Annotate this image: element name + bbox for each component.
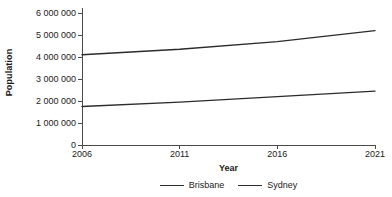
legend-label: Brisbane [189, 180, 225, 190]
legend-line-swatch [238, 185, 262, 186]
chart-legend: BrisbaneSydney [82, 178, 375, 192]
legend-line-swatch [160, 185, 184, 186]
data-series-group [82, 31, 375, 107]
series-line-brisbane [82, 91, 375, 106]
legend-item-brisbane[interactable]: Brisbane [160, 180, 225, 190]
axis-lines [82, 8, 375, 145]
series-line-sydney [82, 31, 375, 55]
population-line-chart: Population 01 000 0002 000 0003 000 0004… [0, 0, 392, 197]
plot-area [0, 0, 392, 197]
legend-label: Sydney [267, 180, 297, 190]
legend-item-sydney[interactable]: Sydney [238, 180, 297, 190]
axis-tick-marks [78, 13, 375, 149]
